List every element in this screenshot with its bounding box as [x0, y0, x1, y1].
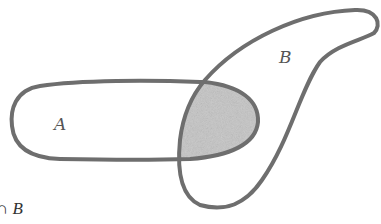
set-b-label: B [279, 47, 292, 67]
intersection-region [179, 10, 378, 208]
caption-set: B [13, 199, 23, 218]
set-a-label: A [54, 114, 66, 134]
caption: ∩ B [0, 199, 23, 219]
caption-operator: ∩ [0, 199, 8, 218]
venn-diagram [0, 0, 381, 224]
